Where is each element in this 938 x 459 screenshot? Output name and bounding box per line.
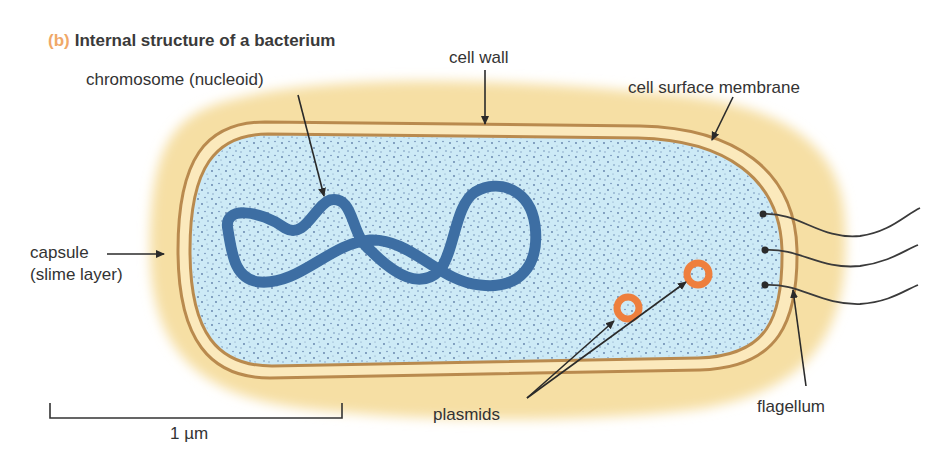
figure-title-text: Internal structure of a bacterium xyxy=(75,31,336,50)
label-slime-layer: (slime layer) xyxy=(30,265,123,285)
cytoplasm xyxy=(192,136,780,364)
label-capsule: capsule xyxy=(30,243,89,263)
label-chromosome: chromosome (nucleoid) xyxy=(86,70,264,90)
flagellum-base xyxy=(762,282,769,289)
figure-title: (b)Internal structure of a bacterium xyxy=(48,31,335,51)
label-scale-bar: 1 µm xyxy=(170,424,208,444)
label-cell-surface-membrane: cell surface membrane xyxy=(628,78,800,98)
label-cell-wall: cell wall xyxy=(449,48,509,68)
bacterium-diagram xyxy=(0,0,938,459)
flagellum-base xyxy=(762,247,769,254)
flagellum-base xyxy=(760,211,767,218)
figure-tag: (b) xyxy=(48,31,70,50)
label-flagellum: flagellum xyxy=(757,397,825,417)
label-plasmids: plasmids xyxy=(433,405,500,425)
